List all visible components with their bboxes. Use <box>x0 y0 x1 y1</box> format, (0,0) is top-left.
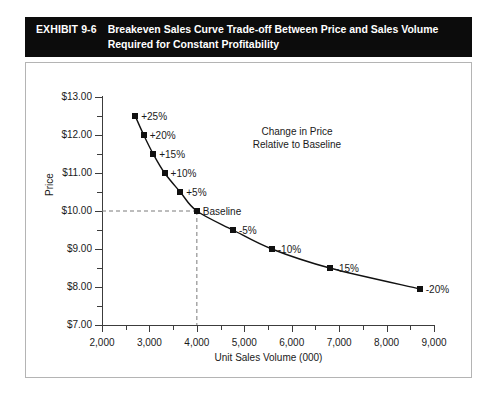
y-tick-label: $13.00 <box>38 92 92 102</box>
x-tick-label: 9,000 <box>404 338 464 348</box>
data-marker <box>177 189 183 195</box>
data-marker <box>141 132 147 138</box>
y-tick <box>95 97 102 98</box>
y-tick-label: $12.00 <box>38 130 92 140</box>
x-tick <box>410 325 411 330</box>
x-tick <box>197 325 198 332</box>
y-tick-label: $11.00 <box>38 168 92 178</box>
y-tick <box>95 287 102 288</box>
data-point-label: -10% <box>278 245 301 255</box>
y-tick-label: $8.00 <box>38 282 92 292</box>
annotation-line-1: Change in Price <box>222 126 372 139</box>
y-tick <box>95 173 102 174</box>
y-tick <box>95 325 102 326</box>
data-marker <box>150 151 156 157</box>
y-tick <box>97 192 102 193</box>
x-tick <box>387 325 388 332</box>
data-marker <box>230 227 236 233</box>
y-tick-label: $10.00 <box>38 206 92 216</box>
x-tick <box>363 325 364 330</box>
exhibit-number: EXHIBIT 9-6 <box>36 22 108 37</box>
x-tick <box>339 325 340 332</box>
y-tick <box>95 211 102 212</box>
x-tick <box>149 325 150 332</box>
exhibit-header-bar: EXHIBIT 9-6 Breakeven Sales Curve Trade-… <box>25 17 472 57</box>
x-axis-title: Unit Sales Volume (000) <box>102 352 435 363</box>
x-tick <box>315 325 316 330</box>
y-tick <box>95 249 102 250</box>
data-point-label: -5% <box>239 226 257 236</box>
data-point-label: +10% <box>171 169 197 179</box>
data-marker <box>132 113 138 119</box>
exhibit-title: Breakeven Sales Curve Trade-off Between … <box>108 22 466 51</box>
exhibit-title-line-2: Required for Constant Profitability <box>108 37 466 52</box>
data-marker <box>162 170 168 176</box>
exhibit-title-line-1: Breakeven Sales Curve Trade-off Between … <box>108 22 466 37</box>
data-marker <box>269 246 275 252</box>
y-tick <box>97 116 102 117</box>
y-tick-label: $9.00 <box>38 244 92 254</box>
x-tick <box>102 325 103 332</box>
data-point-label: -15% <box>336 264 359 274</box>
data-point-label: -20% <box>426 285 449 295</box>
y-tick <box>97 230 102 231</box>
data-marker <box>417 286 423 292</box>
data-point-label: +5% <box>186 188 206 198</box>
data-point-label: +15% <box>159 150 185 160</box>
data-marker <box>194 208 200 214</box>
x-tick <box>126 325 127 330</box>
y-tick <box>97 306 102 307</box>
y-tick <box>97 268 102 269</box>
x-tick <box>268 325 269 330</box>
annotation-line-2: Relative to Baseline <box>222 139 372 152</box>
x-tick <box>244 325 245 332</box>
data-point-label: +20% <box>150 131 176 141</box>
x-tick <box>173 325 174 330</box>
x-tick <box>292 325 293 332</box>
data-marker <box>327 265 333 271</box>
data-point-label: +25% <box>141 112 167 122</box>
y-tick <box>97 154 102 155</box>
data-point-label: Baseline <box>203 207 241 217</box>
exhibit-page: EXHIBIT 9-6 Breakeven Sales Curve Trade-… <box>0 0 498 401</box>
y-tick <box>95 135 102 136</box>
x-tick <box>434 325 435 332</box>
y-tick-label: $7.00 <box>38 320 92 330</box>
x-tick <box>221 325 222 330</box>
chart-annotation: Change in Price Relative to Baseline <box>222 126 372 151</box>
